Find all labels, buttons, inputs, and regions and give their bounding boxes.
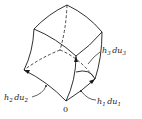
label-h1-du1: h1du1 — [97, 97, 121, 107]
label-h2-du2: h2du2 — [4, 93, 28, 103]
leader-dot-h2 — [45, 85, 47, 87]
leader-lines — [32, 52, 100, 100]
edge-top-left — [34, 5, 67, 29]
arrow-u3-icon — [74, 56, 78, 62]
edge-hidden-left — [24, 50, 60, 70]
leader-dot-h1 — [80, 90, 82, 92]
hidden-edges — [24, 5, 95, 79]
edge-hidden-right — [60, 50, 95, 79]
edge-left-bottom — [24, 70, 66, 101]
arrowheads — [24, 56, 95, 84]
leader-h1 — [81, 91, 96, 100]
label-h3-du3: h3du3 — [102, 46, 126, 56]
edge-hidden-top — [60, 5, 67, 50]
leader-h2 — [32, 86, 46, 97]
leader-h3 — [88, 52, 100, 64]
edge-front-right-top — [76, 32, 102, 56]
origin-label: 0 — [63, 105, 68, 114]
visible-edges — [24, 5, 102, 101]
curvilinear-volume-element-diagram: h3du3 h2du2 h1du1 0 — [0, 0, 142, 119]
edge-top-right — [67, 5, 102, 32]
arrow-u2-icon — [24, 70, 30, 74]
edge-front-vertical — [66, 56, 76, 101]
